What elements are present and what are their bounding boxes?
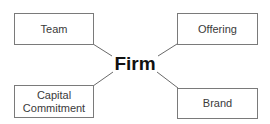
node-brand: Brand (177, 88, 258, 119)
center-node-firm: Firm (105, 53, 165, 75)
node-capital-commitment: Capital Commitment (14, 85, 94, 118)
node-brand-label: Brand (203, 97, 232, 110)
node-team: Team (14, 13, 94, 45)
node-capital-commitment-label: Capital Commitment (23, 89, 85, 115)
node-offering: Offering (177, 13, 258, 45)
node-offering-label: Offering (198, 23, 237, 36)
firm-diagram: Team Offering Capital Commitment Brand F… (0, 0, 270, 124)
node-team-label: Team (41, 23, 68, 36)
